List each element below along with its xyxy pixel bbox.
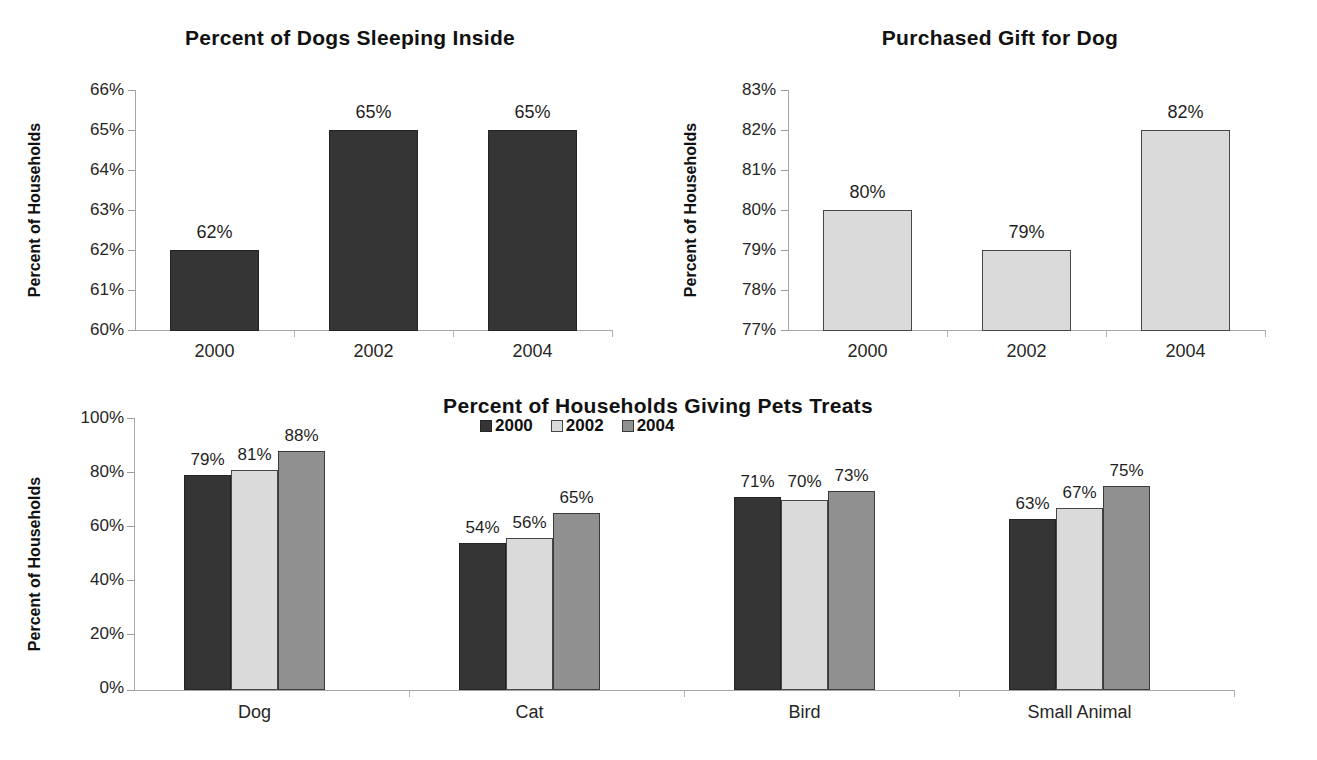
- chart3-ytick-mark: [127, 472, 134, 473]
- bar-value-label: 81%: [231, 445, 278, 465]
- legend-swatch-icon: [551, 420, 563, 432]
- chart1-xtick-divider: [453, 330, 454, 337]
- chart3-y-axis-line: [134, 418, 135, 690]
- chart2-ytick-label: 78%: [700, 280, 776, 300]
- chart2-ytick-mark: [781, 210, 788, 211]
- bar-2000: [823, 210, 912, 331]
- chart1-xtick-label: 2004: [488, 341, 577, 362]
- bar-cat-2000: [459, 543, 506, 690]
- chart1-ytick-mark: [128, 290, 135, 291]
- chart1-ytick-label: 65%: [48, 120, 124, 140]
- chart1-ytick-mark: [128, 170, 135, 171]
- chart2-xtick-divider: [1106, 330, 1107, 337]
- chart1-ytick-mark: [128, 330, 135, 331]
- bar-value-label: 65%: [329, 102, 418, 123]
- bar-bird-2000: [734, 497, 781, 690]
- chart2-ytick-mark: [781, 90, 788, 91]
- chart1-y-axis-label: Percent of Households: [26, 90, 44, 330]
- bar-2004: [1141, 130, 1230, 331]
- chart1-ytick-mark: [128, 250, 135, 251]
- chart1-ytick-label: 64%: [48, 160, 124, 180]
- chart3-legend: 2000 2002 2004: [480, 416, 840, 436]
- bar-cat-2004: [553, 513, 600, 690]
- bar-value-label: 65%: [488, 102, 577, 123]
- bar-value-label: 63%: [1009, 494, 1056, 514]
- bar-value-label: 54%: [459, 518, 506, 538]
- bar-value-label: 88%: [278, 426, 325, 446]
- chart2-y-axis-label: Percent of Households: [682, 90, 700, 330]
- chart1-ytick-label: 62%: [48, 240, 124, 260]
- chart1-ytick-mark: [128, 210, 135, 211]
- chart2-ytick-label: 80%: [700, 200, 776, 220]
- chart2-xtick-divider: [1265, 330, 1266, 337]
- chart1-xtick-label: 2002: [329, 341, 418, 362]
- legend-swatch-icon: [622, 420, 634, 432]
- chart1-ytick-label: 63%: [48, 200, 124, 220]
- chart3-ytick-mark: [127, 418, 134, 419]
- chart3-ytick-label: 60%: [40, 516, 124, 536]
- chart2-ytick-label: 79%: [700, 240, 776, 260]
- legend-item-2002[interactable]: 2002: [551, 416, 604, 436]
- bar-small-animal-2004: [1103, 486, 1150, 690]
- bar-value-label: 67%: [1056, 483, 1103, 503]
- chart3-ytick-mark: [127, 580, 134, 581]
- bar-value-label: 56%: [506, 513, 553, 533]
- chart2-ytick-label: 82%: [700, 120, 776, 140]
- chart2-ytick-label: 81%: [700, 160, 776, 180]
- bar-dog-2004: [278, 451, 325, 690]
- chart2-xtick-label: 2002: [982, 341, 1071, 362]
- chart1-y-axis-line: [135, 90, 136, 331]
- chart2-ytick-mark: [781, 170, 788, 171]
- chart1-ytick-label: 60%: [48, 320, 124, 340]
- legend-swatch-icon: [480, 420, 492, 432]
- chart1-ytick-mark: [128, 130, 135, 131]
- bar-2000: [170, 250, 259, 331]
- chart3-xtick-divider: [959, 690, 960, 697]
- bar-value-label: 73%: [828, 466, 875, 486]
- bar-value-label: 71%: [734, 472, 781, 492]
- bar-cat-2002: [506, 538, 553, 690]
- chart2-ytick-label: 83%: [700, 80, 776, 100]
- chart1-title: Percent of Dogs Sleeping Inside: [70, 26, 630, 50]
- bar-2002: [329, 130, 418, 331]
- chart2-ytick-mark: [781, 130, 788, 131]
- chart3-ytick-label: 0%: [40, 678, 124, 698]
- chart1-ytick-mark: [128, 90, 135, 91]
- bar-2004: [488, 130, 577, 331]
- chart3-xtick-divider: [409, 690, 410, 697]
- chart-households-giving-pets-treats: Percent of Households Giving Pets Treats…: [0, 380, 1317, 760]
- bar-value-label: 62%: [170, 222, 259, 243]
- chart2-xtick-divider: [947, 330, 948, 337]
- chart1-xtick-divider: [294, 330, 295, 337]
- chart3-title: Percent of Households Giving Pets Treats: [258, 394, 1058, 418]
- legend-item-2004[interactable]: 2004: [622, 416, 675, 436]
- bar-2002: [982, 250, 1071, 331]
- bar-value-label: 79%: [184, 450, 231, 470]
- legend-label: 2002: [566, 416, 604, 436]
- chart-purchased-gift-for-dog: Purchased Gift for Dog Percent of Househ…: [660, 0, 1317, 380]
- chart2-xtick-label: 2004: [1141, 341, 1230, 362]
- chart1-ytick-label: 61%: [48, 280, 124, 300]
- chart2-ytick-mark: [781, 330, 788, 331]
- chart3-xtick-divider: [684, 690, 685, 697]
- chart-dogs-sleeping-inside: Percent of Dogs Sleeping Inside Percent …: [0, 0, 660, 380]
- bar-dog-2000: [184, 475, 231, 690]
- bar-small-animal-2000: [1009, 519, 1056, 690]
- chart1-xtick-divider: [612, 330, 613, 337]
- bar-value-label: 79%: [982, 222, 1071, 243]
- chart3-xtick-label: Small Animal: [1009, 702, 1150, 723]
- bar-small-animal-2002: [1056, 508, 1103, 690]
- chart3-xtick-label: Bird: [734, 702, 875, 723]
- chart3-ytick-label: 100%: [40, 408, 124, 428]
- chart3-ytick-label: 20%: [40, 624, 124, 644]
- chart1-xtick-label: 2000: [170, 341, 259, 362]
- chart3-xtick-label: Cat: [459, 702, 600, 723]
- legend-label: 2000: [495, 416, 533, 436]
- chart3-ytick-mark: [127, 690, 134, 691]
- chart3-ytick-label: 40%: [40, 570, 124, 590]
- bar-value-label: 82%: [1141, 102, 1230, 123]
- legend-item-2000[interactable]: 2000: [480, 416, 533, 436]
- legend-label: 2004: [637, 416, 675, 436]
- chart1-ytick-label: 66%: [48, 80, 124, 100]
- chart3-ytick-label: 80%: [40, 462, 124, 482]
